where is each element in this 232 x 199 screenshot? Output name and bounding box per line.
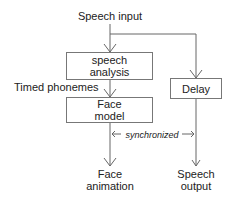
- face-animation-line1: Face: [76, 168, 144, 180]
- speech-input-label: Speech input: [70, 10, 150, 22]
- face-model-box: Face model: [66, 97, 153, 123]
- delay-box: Delay: [170, 78, 222, 99]
- synchronized-label: synchronized: [122, 129, 182, 141]
- face-animation-label: Face animation: [76, 168, 144, 192]
- speech-analysis-line2: analysis: [90, 66, 130, 78]
- speech-analysis-line1: speech: [92, 54, 127, 66]
- speech-output-label: Speech output: [170, 168, 222, 192]
- speech-analysis-box: speech analysis: [66, 52, 153, 80]
- timed-phonemes-label: Timed phonemes: [14, 81, 99, 93]
- face-animation-line2: animation: [76, 180, 144, 192]
- speech-output-line1: Speech: [170, 168, 222, 180]
- face-model-line2: model: [95, 110, 125, 122]
- face-model-line1: Face: [97, 98, 121, 110]
- speech-output-line2: output: [170, 180, 222, 192]
